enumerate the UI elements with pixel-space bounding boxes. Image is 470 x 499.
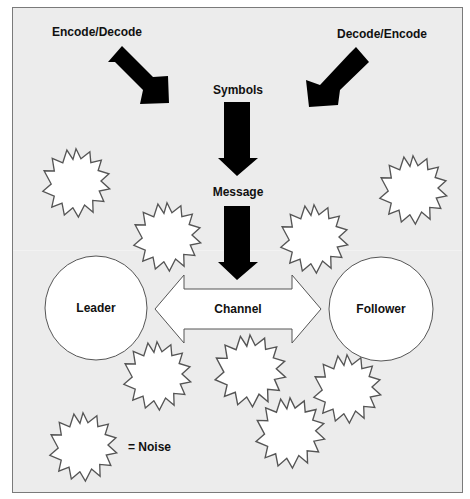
legend-noise-label: = Noise [128, 440, 171, 454]
noise-icon [256, 398, 325, 468]
noise-icon [124, 342, 191, 410]
legend: = Noise [50, 413, 172, 481]
channel-double-arrow-icon: Channel [155, 275, 321, 343]
noise-icon [281, 205, 348, 273]
symbols-label: Symbols [213, 83, 263, 97]
noise-icon [314, 355, 381, 423]
follower-node: Follower [329, 257, 433, 361]
leader-label: Leader [76, 301, 116, 315]
message-label: Message [213, 185, 264, 199]
leader-node: Leader [45, 256, 147, 360]
noise-icon [134, 203, 201, 271]
noise-legend-icon [50, 413, 117, 481]
diagonal-arrow-right-icon [306, 47, 369, 107]
diagonal-arrow-left-icon [108, 46, 169, 104]
decode-encode-label: Decode/Encode [337, 27, 427, 41]
noise-icon [215, 335, 285, 407]
communication-diagram: Encode/Decode Decode/Encode Symbols Mess… [0, 0, 470, 499]
noise-icon [380, 156, 447, 224]
down-arrow-symbols-icon [218, 102, 258, 176]
down-arrow-message-icon [218, 206, 258, 280]
noise-icon [43, 149, 110, 217]
channel-label: Channel [214, 302, 261, 316]
encode-decode-label: Encode/Decode [52, 25, 142, 39]
follower-label: Follower [356, 302, 406, 316]
